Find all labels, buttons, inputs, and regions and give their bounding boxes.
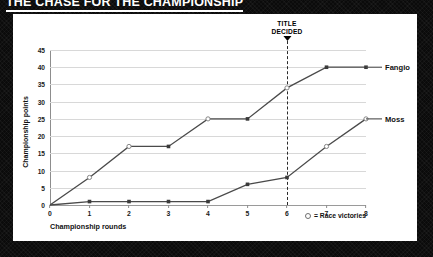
x-tick-mark — [287, 205, 288, 208]
legend: = Race victories — [305, 212, 366, 219]
down-triangle-icon — [283, 36, 291, 41]
screenshot-root: THE CHASE FOR THE CHAMPIONSHIP Champions… — [0, 0, 433, 257]
x-tick-mark — [208, 205, 209, 208]
y-tick-label: 5 — [41, 184, 45, 191]
data-point-marker — [246, 117, 250, 121]
series-line-fangio — [50, 67, 366, 205]
x-tick-mark — [129, 205, 130, 208]
x-tick-mark — [366, 205, 367, 208]
y-tick-label: 35 — [38, 81, 45, 88]
data-point-marker — [325, 65, 329, 69]
victory-marker — [285, 86, 289, 90]
series-lines — [50, 50, 366, 205]
data-point-marker — [127, 200, 131, 204]
x-tick: 3 — [167, 205, 171, 217]
data-point-marker — [246, 183, 250, 187]
x-tick: 5 — [246, 205, 250, 217]
x-tick: 4 — [206, 205, 210, 217]
x-tick: 2 — [127, 205, 131, 217]
data-point-marker — [206, 200, 210, 204]
x-tick-mark — [168, 205, 169, 208]
x-tick: 6 — [285, 205, 289, 217]
x-tick-label: 4 — [206, 210, 210, 217]
data-point-marker — [285, 176, 289, 180]
data-point-marker — [167, 145, 171, 149]
y-tick-label: 0 — [41, 202, 45, 209]
title-decided-annotation: TITLE DECIDED — [271, 20, 302, 41]
open-circle-icon — [305, 213, 311, 219]
data-point-marker — [88, 200, 92, 204]
plot-area: 051015202530354045 012345678 TITLE DECID… — [50, 50, 366, 205]
series-line-moss — [50, 119, 366, 205]
x-tick-label: 2 — [127, 210, 131, 217]
x-tick-label: 1 — [88, 210, 92, 217]
y-axis-title: Championship points — [22, 96, 29, 168]
data-point-marker — [167, 200, 171, 204]
x-tick-mark — [89, 205, 90, 208]
y-tick-label: 15 — [38, 150, 45, 157]
x-tick-label: 0 — [48, 210, 52, 217]
title-decided-line2: DECIDED — [271, 28, 302, 36]
y-tick-label: 25 — [38, 115, 45, 122]
victory-marker — [127, 144, 131, 148]
y-tick-label: 40 — [38, 64, 45, 71]
series-label-fangio: Fangio — [385, 63, 410, 72]
chart-panel: Championship points Championship rounds … — [13, 14, 417, 241]
y-tick-label: 20 — [38, 133, 45, 140]
x-tick-label: 6 — [285, 210, 289, 217]
x-tick-mark — [326, 205, 327, 208]
title-decided-line1: TITLE — [271, 20, 302, 28]
victory-marker — [87, 175, 91, 179]
y-tick-label: 10 — [38, 167, 45, 174]
x-axis-title: Championship rounds — [50, 222, 126, 231]
y-tick-label: 45 — [38, 47, 45, 54]
y-tick-label: 30 — [38, 98, 45, 105]
x-tick-label: 5 — [246, 210, 250, 217]
series-label-moss: Moss — [385, 114, 404, 123]
victory-marker — [324, 144, 328, 148]
page-title: THE CHASE FOR THE CHAMPIONSHIP — [6, 0, 243, 12]
x-tick-mark — [247, 205, 248, 208]
x-tick-label: 3 — [167, 210, 171, 217]
x-tick: 0 — [48, 205, 52, 217]
victory-marker — [206, 117, 210, 121]
legend-label: = Race victories — [314, 212, 366, 219]
x-tick: 1 — [88, 205, 92, 217]
